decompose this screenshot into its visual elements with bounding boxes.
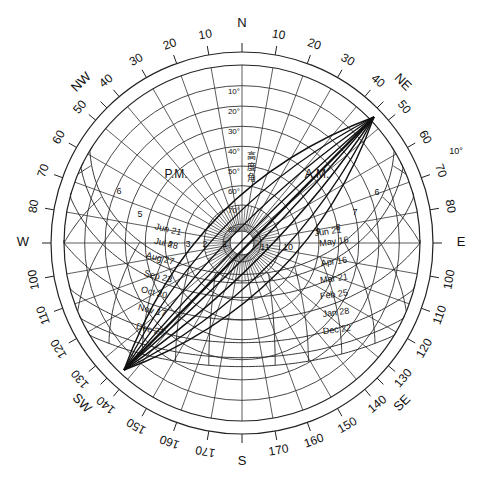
azimuth-tick bbox=[407, 143, 415, 148]
azimuth-line bbox=[211, 255, 240, 418]
azimuth-tick bbox=[142, 70, 147, 78]
azimuth-tick bbox=[388, 366, 395, 372]
azimuth-tick-label: 40 bbox=[369, 71, 388, 91]
azimuth-tick-label: 60 bbox=[49, 128, 68, 147]
azimuth-tick bbox=[365, 90, 371, 97]
compass-label-ne: NE bbox=[392, 70, 416, 94]
altitude-label: 80° bbox=[228, 225, 240, 234]
altitude-label: 70° bbox=[228, 206, 240, 215]
azimuth-tick bbox=[113, 90, 119, 97]
azimuth-tick-label: 70 bbox=[34, 162, 52, 180]
azimuth-tick bbox=[307, 422, 310, 430]
azimuth-tick bbox=[45, 208, 54, 210]
pm-label: P.M. bbox=[164, 167, 187, 181]
date-label-pm: Jun 21 bbox=[154, 221, 183, 237]
azimuth-tick bbox=[377, 378, 383, 384]
altitude-axis-title: 度 bbox=[247, 161, 256, 172]
sun-path-diagram: NNEESESSWWNW1020304050607080100110120130… bbox=[0, 0, 485, 489]
azimuth-tick-label: 130 bbox=[391, 366, 415, 391]
azimuth-tick-label: 20 bbox=[161, 35, 179, 53]
hour-label-pm: 3 bbox=[185, 239, 190, 249]
azimuth-tick-label: 170 bbox=[194, 443, 216, 460]
azimuth-tick-label: 100 bbox=[25, 268, 42, 290]
azimuth-tick-label: 10 bbox=[197, 26, 213, 42]
azimuth-tick bbox=[388, 114, 395, 120]
date-label-am: Dec 22 bbox=[322, 322, 352, 336]
azimuth-tick bbox=[275, 431, 277, 440]
azimuth-tick bbox=[54, 308, 62, 311]
hour-label-pm: 6 bbox=[116, 186, 121, 196]
sun-path-chart: NNEESESSWWNW1020304050607080100110120130… bbox=[0, 0, 485, 489]
date-label-pm: Dec 22 bbox=[135, 321, 165, 338]
azimuth-tick-label: 130 bbox=[68, 367, 92, 392]
azimuth-line bbox=[244, 68, 273, 231]
azimuth-tick bbox=[307, 55, 310, 63]
azimuth-tick bbox=[69, 339, 77, 344]
compass-label-e: E bbox=[457, 234, 466, 249]
hour-label-pm: 5 bbox=[137, 209, 142, 219]
azimuth-tick bbox=[421, 175, 429, 178]
azimuth-line bbox=[67, 212, 230, 241]
azimuth-tick bbox=[101, 378, 107, 384]
azimuth-tick-label: 30 bbox=[339, 50, 358, 69]
date-label-am: Mar 21 bbox=[319, 271, 348, 285]
compass-label-s: S bbox=[238, 453, 247, 468]
hour-label-am: 11 bbox=[260, 242, 269, 252]
hour-label-am: 7 bbox=[352, 207, 357, 217]
date-label-pm: Aug 27 bbox=[145, 250, 175, 267]
altitude-label: 20° bbox=[228, 107, 240, 116]
azimuth-tick bbox=[275, 46, 277, 55]
azimuth-tick-label: 20 bbox=[306, 35, 324, 53]
azimuth-tick-label: 160 bbox=[302, 430, 326, 450]
date-label-am: Apr 16 bbox=[320, 255, 348, 269]
azimuth-tick bbox=[174, 55, 177, 63]
date-label-pm: Jul 28 bbox=[153, 236, 179, 252]
compass-label-nw: NW bbox=[68, 68, 94, 94]
azimuth-tick bbox=[89, 114, 96, 120]
altitude-label: 60° bbox=[228, 187, 240, 196]
azimuth-tick bbox=[421, 308, 429, 311]
hour-line bbox=[78, 223, 119, 311]
azimuth-tick bbox=[377, 102, 383, 108]
azimuth-tick bbox=[207, 46, 209, 55]
date-label-am: Jan 28 bbox=[322, 306, 350, 320]
date-label-pm: Sep 23 bbox=[143, 268, 173, 285]
azimuth-tick-label: 110 bbox=[33, 304, 53, 327]
azimuth-tick-label: 60 bbox=[416, 128, 435, 147]
azimuth-tick bbox=[430, 276, 439, 278]
azimuth-tick-label: 110 bbox=[430, 303, 450, 326]
azimuth-tick-label: 140 bbox=[365, 392, 390, 416]
compass-label-w: W bbox=[17, 234, 30, 249]
azimuth-tick-label: 80 bbox=[443, 198, 459, 214]
altitude-label: 50° bbox=[228, 167, 240, 176]
azimuth-tick bbox=[430, 208, 439, 210]
am-label: A.M. bbox=[305, 167, 330, 181]
azimuth-tick-label: 160 bbox=[157, 432, 181, 452]
altitude-label: 40° bbox=[228, 147, 240, 156]
azimuth-tick bbox=[101, 102, 107, 108]
azimuth-tick-label: 30 bbox=[127, 50, 146, 69]
compass-label-n: N bbox=[237, 15, 246, 30]
side-altitude-label: 10° bbox=[449, 146, 463, 156]
azimuth-tick-label: 150 bbox=[335, 414, 360, 436]
azimuth-tick-label: 80 bbox=[25, 198, 41, 214]
hour-line bbox=[366, 223, 407, 311]
azimuth-line bbox=[244, 255, 273, 418]
azimuth-tick bbox=[142, 408, 147, 416]
azimuth-tick bbox=[365, 389, 371, 396]
azimuth-tick bbox=[69, 143, 77, 148]
hour-label-pm: 2 bbox=[202, 239, 207, 249]
azimuth-tick bbox=[338, 408, 343, 416]
azimuth-tick bbox=[207, 431, 209, 440]
azimuth-tick-label: 140 bbox=[93, 393, 118, 417]
compass-label-sw: SW bbox=[70, 390, 96, 416]
azimuth-tick-label: 70 bbox=[432, 162, 450, 180]
azimuth-tick-label: 50 bbox=[70, 97, 90, 116]
azimuth-tick-label: 100 bbox=[440, 268, 457, 290]
azimuth-tick-label: 10 bbox=[271, 26, 287, 42]
azimuth-tick-label: 40 bbox=[96, 71, 115, 91]
azimuth-tick bbox=[89, 366, 96, 372]
azimuth-tick-label: 120 bbox=[413, 336, 435, 361]
azimuth-tick-label: 150 bbox=[124, 415, 149, 437]
azimuth-tick-label: 170 bbox=[267, 441, 289, 458]
